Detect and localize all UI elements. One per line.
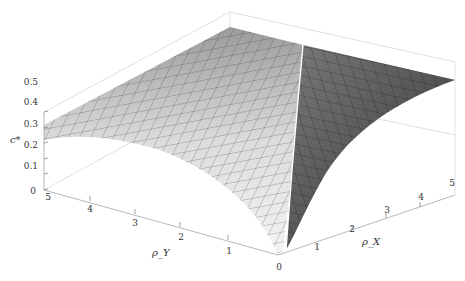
z-axis xyxy=(44,111,48,190)
z-axis-label: c* xyxy=(10,134,21,145)
y-tick-2: 2 xyxy=(178,232,184,242)
z-tick-0.4: 0.4 xyxy=(24,97,39,107)
y-axis-ticks xyxy=(90,196,228,240)
z-tick-0: 0 xyxy=(30,186,36,196)
z-tick-0.1: 0.1 xyxy=(24,161,38,171)
x-tick-5: 5 xyxy=(449,178,455,188)
y-tick-4: 4 xyxy=(87,204,93,214)
surface-plot: 0 0.1 0.2 0.3 0.4 0.5 c* 5 4 3 2 1 0 ρ_Y… xyxy=(0,0,465,281)
x-tick-2: 2 xyxy=(349,224,355,234)
x-tick-3: 3 xyxy=(384,205,390,215)
origin-tick-0: 0 xyxy=(276,262,282,272)
z-tick-0.3: 0.3 xyxy=(24,119,39,129)
x-axis-label: ρ_X xyxy=(361,236,381,248)
z-tick-0.5: 0.5 xyxy=(24,77,39,87)
y-tick-1: 1 xyxy=(226,246,232,256)
y-tick-5: 5 xyxy=(45,192,51,202)
x-tick-1: 1 xyxy=(314,242,320,252)
x-tick-4: 4 xyxy=(418,192,424,202)
z-tick-0.2: 0.2 xyxy=(24,140,38,150)
y-axis-label: ρ_Y xyxy=(151,247,171,259)
y-tick-3: 3 xyxy=(132,218,138,228)
